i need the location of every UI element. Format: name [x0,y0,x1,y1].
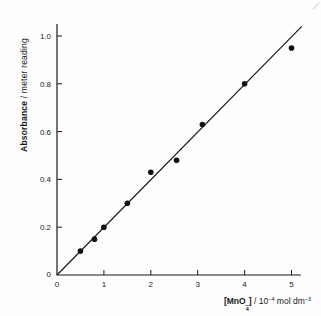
data-point [101,224,107,230]
x-tick-label: 4 [242,280,247,289]
data-point [200,122,206,128]
chart-container: 01234500.20.40.60.81.0 Absorbance / mete… [0,0,321,316]
exponent: −3 [305,296,311,302]
y-tick-label: 0.4 [40,175,52,184]
data-point [78,248,84,254]
x-tick-label: 0 [55,280,60,289]
data-point [92,236,98,242]
y-tick-label: 0.8 [40,80,52,89]
data-point [242,81,248,87]
y-tick-label: 1.0 [40,32,52,41]
y-tick-label: 0.6 [40,128,52,137]
y-axis-label-rest: / meter reading [19,38,29,101]
x-tick-label: 2 [149,280,154,289]
data-point [289,45,295,51]
x-axis-label-formula: [MnO−4] [224,296,252,306]
x-axis-label-units: / 10−4 mol dm−3 [252,296,311,306]
y-axis-label: Absorbance / meter reading [19,25,29,165]
y-tick-label: 0 [47,270,52,279]
x-tick-label: 1 [102,280,107,289]
x-tick-label: 5 [289,280,294,289]
data-point [148,169,154,175]
x-tick-label: 3 [195,280,200,289]
scan-artifact [313,3,319,9]
exponent: −4 [268,296,274,302]
scatter-plot: 01234500.20.40.60.81.0 [0,0,321,316]
x-axis-label: [MnO−4] / 10−4 mol dm−3 [224,296,311,312]
data-point [174,157,180,163]
data-point [125,201,131,207]
y-tick-label: 0.2 [40,223,52,232]
y-axis-label-bold: Absorbance [19,101,29,152]
